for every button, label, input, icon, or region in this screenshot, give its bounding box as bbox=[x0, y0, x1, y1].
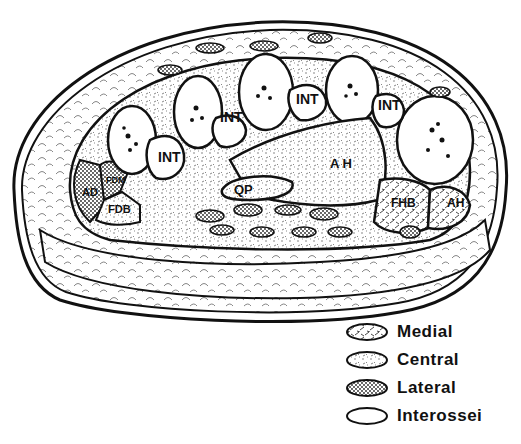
label-ah-main: A H bbox=[330, 156, 352, 171]
label-ad: AD bbox=[82, 186, 98, 198]
legend-label: Interossei bbox=[397, 406, 482, 426]
central-swatch-icon bbox=[345, 350, 389, 370]
label-int-4: INT bbox=[378, 97, 401, 113]
interossei-swatch-icon bbox=[345, 406, 389, 426]
lateral-swatch-icon bbox=[345, 378, 389, 398]
label-int-2: INT bbox=[220, 109, 243, 125]
legend-item-lateral: Lateral bbox=[345, 374, 482, 402]
legend: Medial Central Lateral Interossei bbox=[345, 318, 482, 430]
label-qp: QP bbox=[234, 182, 253, 197]
label-fhb: FHB bbox=[391, 196, 416, 210]
legend-label: Lateral bbox=[397, 378, 456, 398]
label-int-1: INT bbox=[158, 149, 181, 165]
legend-label: Medial bbox=[397, 322, 453, 342]
legend-label: Central bbox=[397, 350, 459, 370]
legend-item-interossei: Interossei bbox=[345, 402, 482, 430]
metatarsal-3 bbox=[239, 54, 293, 130]
metatarsal-1 bbox=[397, 96, 473, 184]
label-int-3: INT bbox=[296, 91, 319, 107]
label-ah-side: AH bbox=[447, 196, 464, 210]
legend-item-central: Central bbox=[345, 346, 482, 374]
label-fdm: FDM bbox=[106, 175, 126, 185]
metatarsal-2 bbox=[326, 56, 378, 124]
legend-item-medial: Medial bbox=[345, 318, 482, 346]
diagram-root: INT INT INT INT A H QP FHB AH FDB FDM AD… bbox=[0, 0, 521, 444]
label-fdb: FDB bbox=[108, 203, 131, 215]
medial-swatch-icon bbox=[345, 322, 389, 342]
